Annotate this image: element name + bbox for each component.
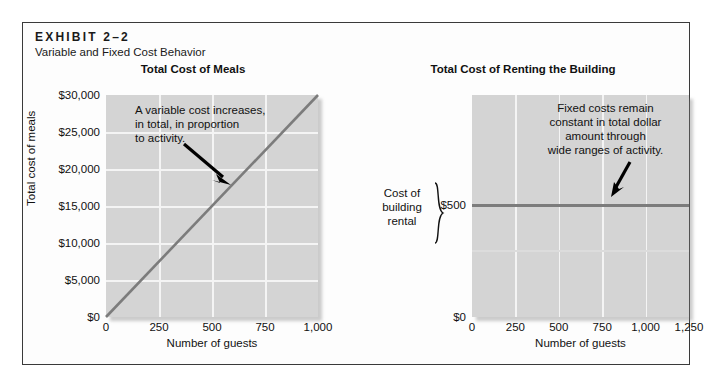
annotation-arrow-icon-right bbox=[608, 159, 642, 199]
building-rental-caption-line-1: building bbox=[375, 200, 429, 214]
x-tick-label-left-2: 500 bbox=[202, 321, 221, 333]
annotation-variable-line-0: A variable cost increases, bbox=[135, 103, 285, 117]
building-rental-caption-line-0: Cost of bbox=[375, 186, 429, 200]
x-tick-label-right-2: 500 bbox=[549, 321, 568, 333]
y-tick-label-left-3: $15,000 bbox=[58, 200, 100, 212]
y-tick-label-left-6: $30,000 bbox=[58, 89, 100, 101]
exhibit-frame: EXHIBIT 2–2 Variable and Fixed Cost Beha… bbox=[22, 22, 690, 365]
annotation-fixed-line-3: wide ranges of activity. bbox=[518, 143, 693, 157]
x-axis-title-left: Number of guests bbox=[106, 337, 318, 349]
x-tick-label-right-5: 1,250 bbox=[675, 321, 704, 333]
x-tick-label-right-4: 1,000 bbox=[631, 321, 660, 333]
y-tick-label-left-0: $0 bbox=[87, 311, 100, 323]
x-tick-label-left-3: 750 bbox=[255, 321, 274, 333]
annotation-fixed-line-2: amount through bbox=[518, 129, 693, 143]
curly-bracket-icon bbox=[433, 182, 445, 244]
annotation-fixed-line-0: Fixed costs remain bbox=[518, 101, 693, 115]
x-axis-title-right: Number of guests bbox=[472, 337, 689, 349]
y-tick-label-left-2: $10,000 bbox=[58, 237, 100, 249]
x-tick-label-right-1: 250 bbox=[506, 321, 525, 333]
exhibit-number: EXHIBIT 2–2 bbox=[35, 30, 205, 44]
chart-title-right: Total Cost of Renting the Building bbox=[373, 63, 673, 75]
exhibit-header: EXHIBIT 2–2 Variable and Fixed Cost Beha… bbox=[35, 30, 205, 58]
building-rental-caption-line-2: rental bbox=[375, 214, 429, 228]
x-tick-label-right-3: 750 bbox=[593, 321, 612, 333]
fixed-cost-line bbox=[472, 204, 689, 207]
annotation-variable-line-1: in total, in proportion bbox=[135, 117, 285, 131]
building-rental-bracket-group: Cost of building rental bbox=[375, 182, 471, 250]
y-tick-label-left-4: $20,000 bbox=[58, 163, 100, 175]
x-tick-label-right-0: 0 bbox=[469, 321, 475, 333]
chart-title-left: Total Cost of Meals bbox=[43, 63, 343, 75]
gridline-h-faint-right bbox=[472, 250, 689, 252]
y-axis-title-left: Total cost of meals bbox=[25, 111, 37, 206]
annotation-fixed-cost: Fixed costs remain constant in total dol… bbox=[518, 101, 693, 157]
annotation-variable-cost: A variable cost increases, in total, in … bbox=[135, 103, 285, 145]
annotation-arrow-icon-left bbox=[181, 141, 241, 191]
x-tick-label-left-0: 0 bbox=[103, 321, 109, 333]
annotation-fixed-line-1: constant in total dollar bbox=[518, 115, 693, 129]
x-tick-label-left-4: 1,000 bbox=[304, 321, 333, 333]
x-tick-label-left-1: 250 bbox=[149, 321, 168, 333]
building-rental-caption: Cost of building rental bbox=[375, 186, 429, 228]
y-tick-label-right-0: $0 bbox=[453, 311, 466, 323]
exhibit-subtitle: Variable and Fixed Cost Behavior bbox=[35, 46, 205, 58]
y-tick-label-left-5: $25,000 bbox=[58, 126, 100, 138]
y-tick-label-left-1: $5,000 bbox=[65, 274, 100, 286]
